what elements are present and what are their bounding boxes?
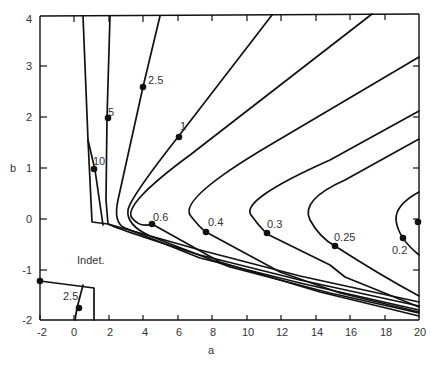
contour-0.4 — [189, 57, 419, 312]
x-tick-label: 0 — [71, 326, 77, 338]
y-tick-label: -1 — [22, 264, 32, 276]
x-tick-label: 12 — [276, 326, 288, 338]
indeterminate-region-label: Indet. — [77, 254, 105, 266]
indet-boundary — [83, 16, 419, 302]
x-tick-labels: -2 0 2 4 6 8 10 12 14 16 18 20 — [37, 326, 426, 338]
x-tick-label: 8 — [210, 326, 216, 338]
marker-1 — [176, 134, 183, 141]
plot-frame — [40, 14, 419, 320]
contour-label-1: 1 — [180, 120, 186, 132]
contour-label-2.5-lower: 2.5 — [63, 290, 78, 302]
contour-label-2.5: 2.5 — [148, 74, 163, 86]
y-tick-label: 4 — [26, 13, 32, 25]
x-axis-label: a — [208, 344, 215, 356]
contour-label-10: 10 — [93, 155, 105, 167]
marker-right-edge — [415, 219, 422, 226]
y-tick-labels: 4 3 2 1 0 -1 -2 — [22, 13, 32, 326]
x-tick-label: 18 — [380, 326, 392, 338]
y-tick-label: 0 — [26, 213, 32, 225]
y-tick-label: 1 — [26, 162, 32, 174]
contour-label-0.6: 0.6 — [153, 211, 168, 223]
contour-label-0.4: 0.4 — [208, 216, 223, 228]
x-tick-label: 16 — [345, 326, 357, 338]
contour-lines — [40, 14, 419, 320]
y-axis-label: b — [10, 162, 16, 174]
y-tick-label: 3 — [26, 60, 32, 72]
contour-label-0.25: 0.25 — [334, 231, 355, 243]
y-tick-label: 2 — [26, 111, 32, 123]
x-tick-label: -2 — [37, 326, 47, 338]
x-tick-label: 4 — [142, 326, 148, 338]
x-tick-label: 10 — [242, 326, 254, 338]
marker-2.5 — [140, 84, 147, 91]
contour-label-5: 5 — [108, 106, 114, 118]
x-tick-label: 6 — [176, 326, 182, 338]
marker-0.2 — [400, 235, 407, 242]
y-tick-label: -2 — [22, 314, 32, 326]
x-tick-label: 2 — [107, 326, 113, 338]
marker-0.25 — [332, 243, 339, 250]
contour-label-0.2: 0.2 — [392, 244, 407, 256]
contour-label-0.3: 0.3 — [267, 218, 282, 230]
top-border — [40, 14, 419, 16]
marker-0.4 — [203, 229, 210, 236]
x-tick-label: 20 — [414, 326, 426, 338]
marker-left-edge — [37, 278, 44, 285]
marker-0.3 — [264, 230, 271, 237]
marker-2.5-lower — [76, 305, 83, 312]
chart-svg: -2 0 2 4 6 8 10 12 14 16 18 20 4 3 2 1 0… — [0, 0, 435, 367]
x-tick-label: 14 — [311, 326, 323, 338]
contour-markers — [37, 84, 422, 312]
contour-chart: -2 0 2 4 6 8 10 12 14 16 18 20 4 3 2 1 0… — [0, 0, 435, 367]
